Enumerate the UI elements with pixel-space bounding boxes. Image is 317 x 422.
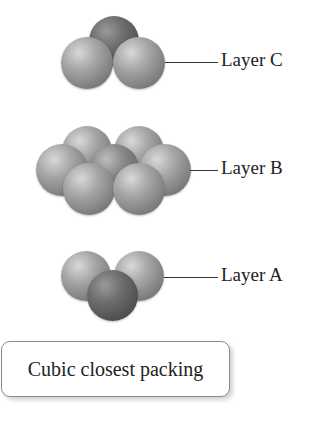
caption-box: Cubic closest packing — [1, 341, 230, 397]
layer-b-leader-line — [190, 170, 218, 171]
layer-a-label: Layer A — [221, 264, 283, 286]
sphere-icon — [113, 37, 165, 89]
sphere-icon — [113, 163, 165, 215]
caption-text: Cubic closest packing — [28, 358, 204, 381]
sphere-icon — [61, 37, 113, 89]
layer-c-label: Layer C — [221, 49, 283, 71]
sphere-icon — [63, 163, 115, 215]
layer-c-leader-line — [165, 62, 218, 63]
sphere-icon — [87, 270, 138, 321]
layer-b-label: Layer B — [221, 157, 283, 179]
layer-a-leader-line — [164, 277, 218, 278]
